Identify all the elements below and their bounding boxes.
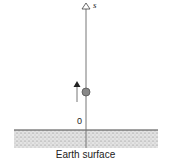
ball [82, 88, 90, 96]
axis-arrowhead-icon [82, 3, 90, 9]
velocity-arrow-head-icon [74, 81, 81, 87]
ground-label: Earth surface [0, 150, 171, 160]
origin-label: 0 [77, 117, 82, 126]
diagram-canvas [0, 0, 171, 166]
axis-label: s [93, 1, 97, 10]
